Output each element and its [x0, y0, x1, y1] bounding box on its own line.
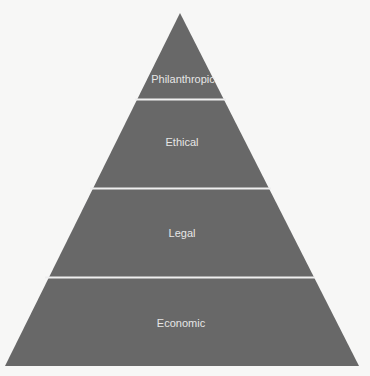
level-ethical-label: Ethical [165, 136, 198, 148]
level-legal-label: Legal [169, 227, 196, 239]
level-economic-label: Economic [157, 317, 205, 329]
level-philanthropic-label: Philanthropic [151, 73, 215, 85]
